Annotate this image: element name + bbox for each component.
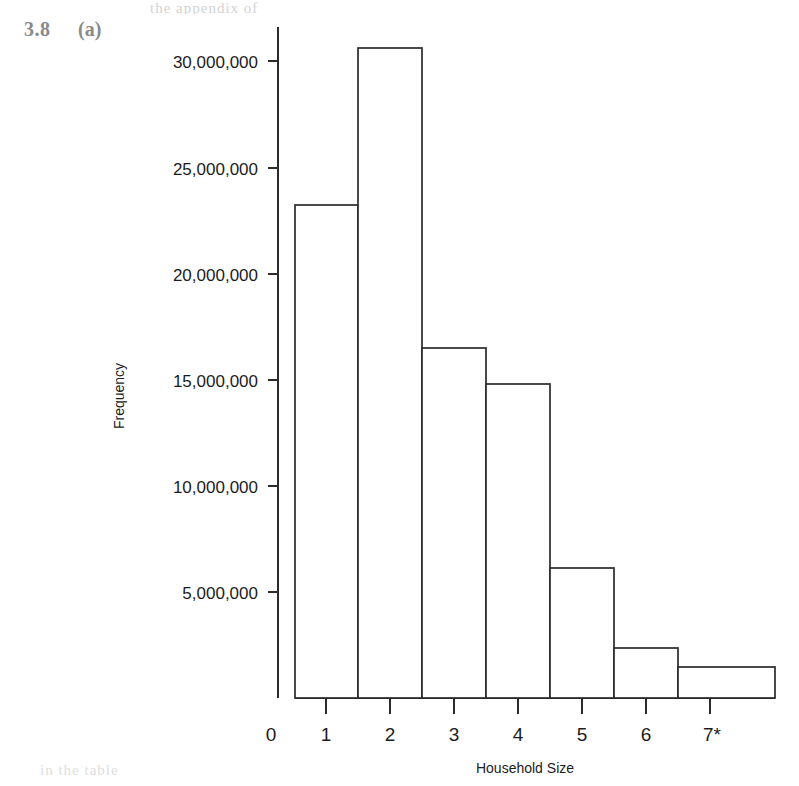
x-tick-label-6: 6: [641, 724, 652, 745]
bar-household-size-3: [422, 348, 486, 698]
bar-household-size-5: [550, 568, 614, 698]
x-axis-ticks: [326, 698, 710, 714]
y-tick-label-20000000: 20,000,000: [173, 266, 258, 285]
y-tick-label-10000000: 10,000,000: [173, 478, 258, 497]
y-tick-label-25000000: 25,000,000: [173, 160, 258, 179]
histogram-svg: 30,000,000 25,000,000 20,000,000 15,000,…: [0, 0, 799, 786]
bar-household-size-4: [486, 384, 550, 698]
x-axis-title: Household Size: [476, 760, 574, 776]
bar-household-size-1: [295, 205, 358, 698]
y-axis-ticks: 30,000,000 25,000,000 20,000,000 15,000,…: [173, 53, 278, 603]
bar-household-size-6: [614, 648, 678, 698]
y-axis-title: Frequency: [111, 363, 127, 429]
bar-household-size-2: [358, 48, 422, 698]
x-tick-label-2: 2: [385, 724, 396, 745]
household-size-histogram: 30,000,000 25,000,000 20,000,000 15,000,…: [0, 0, 799, 786]
y-tick-label-5000000: 5,000,000: [182, 584, 258, 603]
bars-group: [295, 48, 775, 698]
x-axis-labels: 0 1 2 3 4 5 6 7*: [266, 724, 722, 745]
x-tick-label-7plus: 7*: [703, 724, 722, 745]
page-bleed-bottom-text: in the table: [40, 762, 370, 778]
x-tick-label-0: 0: [266, 724, 277, 745]
y-tick-label-30000000: 30,000,000: [173, 53, 258, 72]
bar-household-size-7plus: [678, 667, 775, 698]
x-tick-label-1: 1: [321, 724, 332, 745]
y-tick-label-15000000: 15,000,000: [173, 372, 258, 391]
x-tick-label-4: 4: [513, 724, 524, 745]
x-tick-label-5: 5: [577, 724, 588, 745]
x-tick-label-3: 3: [449, 724, 460, 745]
